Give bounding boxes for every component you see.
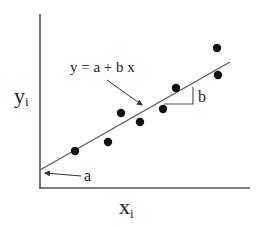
data-point — [159, 105, 167, 113]
data-point — [214, 71, 222, 79]
intercept-label: a — [84, 167, 91, 184]
data-point — [71, 147, 79, 155]
regression-diagram: y = a + b x a b yi xi — [0, 0, 264, 229]
x-axis-label: xi — [119, 194, 134, 221]
data-point — [172, 84, 180, 92]
slope-label: b — [198, 88, 206, 105]
equation-label: y = a + b x — [70, 59, 135, 75]
intercept-pointer-arrow — [45, 173, 81, 176]
equation-pointer-arrow — [107, 80, 142, 105]
y-axis-label-subscript: i — [25, 94, 29, 109]
regression-line — [40, 62, 230, 170]
y-axis-label-main: y — [14, 83, 25, 108]
data-point — [117, 109, 125, 117]
data-point — [136, 118, 144, 126]
data-point — [213, 44, 221, 52]
data-point — [104, 138, 112, 146]
x-axis-label-main: x — [119, 194, 130, 219]
y-axis-label: yi — [14, 83, 29, 109]
x-axis-label-subscript: i — [130, 206, 134, 221]
